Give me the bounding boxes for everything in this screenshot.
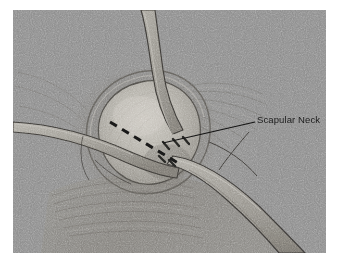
glenoid-highlight xyxy=(113,96,165,136)
illustration-figure: Scapular Neck xyxy=(0,0,340,266)
scapular-neck-label: Scapular Neck xyxy=(257,114,320,126)
surgical-illustration-artwork xyxy=(13,10,326,253)
illustration-plate xyxy=(13,10,326,253)
